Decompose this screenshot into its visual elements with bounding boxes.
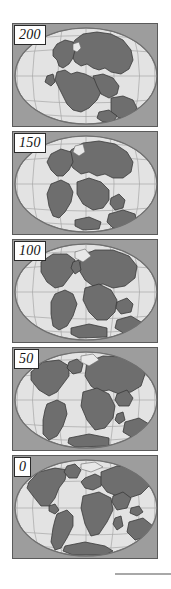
map-canvas-0 (13, 456, 157, 558)
map-panel-50[interactable]: 50 (12, 347, 158, 451)
map-label-0: 0 (14, 457, 31, 477)
map-label-50: 50 (14, 349, 39, 369)
map-panel-200[interactable]: 200 (12, 23, 158, 127)
map-label-200: 200 (14, 25, 46, 45)
map-label-150: 150 (14, 133, 46, 153)
scale-bar (115, 573, 171, 575)
map-panel-100[interactable]: 100 (12, 239, 158, 343)
map-label-100: 100 (14, 241, 46, 261)
map-panel-0[interactable]: 0 (12, 455, 158, 559)
map-panel-150[interactable]: 150 (12, 131, 158, 235)
paleogeographic-map-figure: 200 (0, 0, 171, 589)
